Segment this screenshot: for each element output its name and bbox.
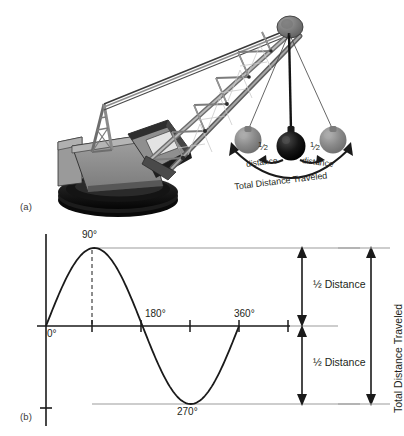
xtick-label-360: 360° — [234, 308, 255, 319]
crane-illustration — [0, 0, 399, 228]
arrowhead-lower-top — [297, 325, 307, 337]
xtick-label-0: 0° — [47, 328, 57, 339]
xtick-label-180: 180° — [145, 308, 166, 319]
crane-pendant-lines — [104, 28, 292, 110]
measure-label-lower-half: ½ Distance — [313, 356, 366, 368]
xtick-label-90: 90° — [82, 229, 97, 240]
xtick-label-270: 270° — [177, 406, 198, 417]
figure-panel-b: 0° 90° 180° 270° 360° ½ Distance ½ Dista… — [0, 228, 399, 436]
panel-b-caption: (b) — [20, 411, 32, 422]
wrecking-ball-right-ghost — [320, 126, 347, 154]
crane-half-label-right: 1⁄2 — [310, 140, 320, 152]
figure-panel-a: 1⁄2 distance 1⁄2 distance Total Distance… — [0, 0, 399, 228]
sine-wave-chart — [0, 228, 399, 436]
crane-half-label-left: 1⁄2 — [258, 140, 268, 152]
measure-label-upper-half: ½ Distance — [313, 278, 366, 290]
panel-a-caption: (a) — [20, 201, 32, 212]
crane-total-distance-label: Total Distance Traveled — [234, 176, 328, 186]
measure-label-total: Total Distance Traveled — [392, 304, 404, 413]
wrecking-ball-center — [277, 126, 306, 161]
